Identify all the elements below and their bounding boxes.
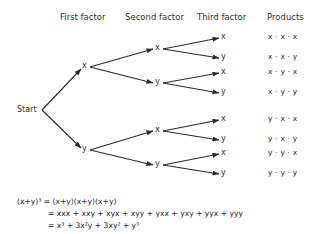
tree-level2-node: y — [155, 77, 160, 87]
product-item: x · y · y — [268, 87, 297, 97]
tree-level2-node: x — [155, 43, 160, 53]
tree-level3-node: y — [221, 168, 226, 178]
arrow-x-to-x — [90, 49, 153, 67]
product-item: y · x · x — [268, 114, 297, 124]
tree-level1-node: x — [82, 61, 87, 71]
arrow-start-to-x — [42, 69, 81, 110]
tree-level3-node: x — [221, 148, 226, 158]
arrow-y-to-x — [90, 131, 153, 150]
tree-level3-node: x — [221, 114, 226, 124]
tree-level3-node: x — [221, 67, 226, 77]
arrow-y-to-y — [90, 150, 153, 165]
product-item: y · y · y — [268, 168, 297, 178]
product-item: x · x · x — [268, 32, 297, 42]
equation-line-3: = x³ + 3x²y + 3xy² + y³ — [48, 220, 139, 231]
product-item: y · y · x — [268, 148, 297, 158]
tree-level3-node: y — [221, 134, 226, 144]
equation-line-1: (x+y)³ = (x+y)(x+y)(x+y) — [17, 196, 116, 207]
tree-level3-node: x — [221, 32, 226, 42]
tree-level3-node: y — [221, 52, 226, 62]
tree-level3-node: y — [221, 87, 226, 97]
tree-level2-node: y — [155, 159, 160, 169]
product-item: x · y · x — [268, 67, 297, 77]
arrow-start-to-y — [42, 110, 81, 148]
product-item: x · x · y — [268, 52, 297, 62]
equation-line-2: = xxx + xxy + xyx + xyy + yxx + yxy + yy… — [48, 208, 243, 219]
arrow-x-to-y — [90, 67, 153, 83]
product-item: y · x · y — [268, 134, 297, 144]
tree-level2-node: x — [155, 125, 160, 135]
tree-level1-node: y — [82, 144, 87, 154]
tree-root-start: Start — [17, 105, 37, 115]
